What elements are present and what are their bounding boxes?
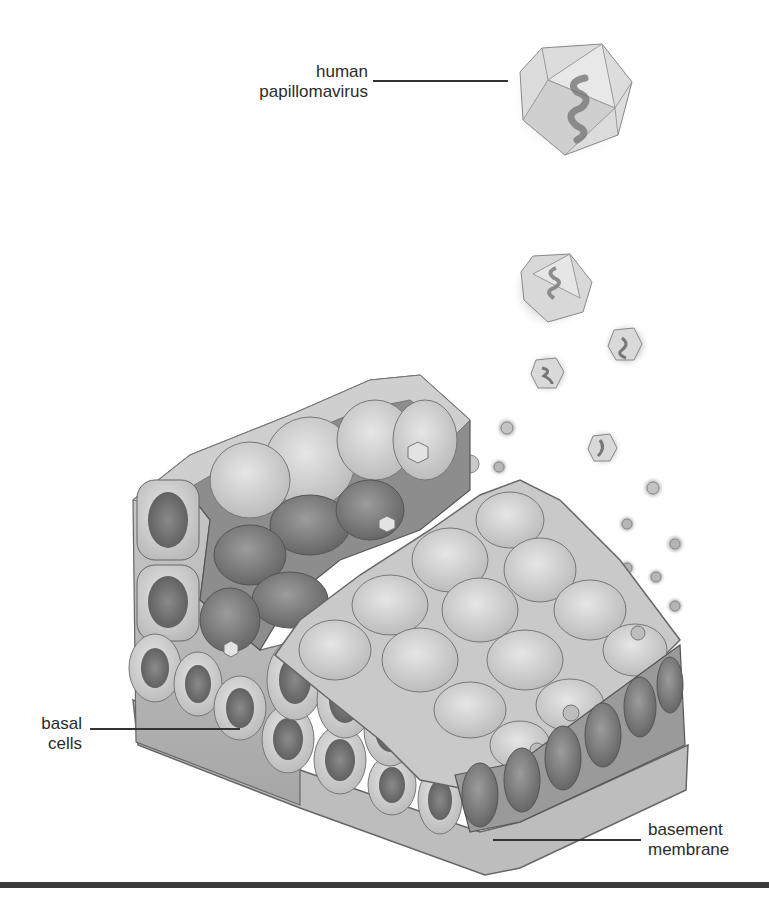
virus-particle-icon [489,457,509,477]
label-line: basal [20,714,82,734]
bottom-rule [0,882,769,888]
epithelium-illustration [0,0,769,897]
medium-virus-icon [511,250,592,330]
embedded-virus-icon [379,516,395,532]
label-basement-membrane: basement membrane [648,820,729,860]
virus-particle-icon [665,596,685,616]
embedded-virus-icon [224,641,238,657]
embedded-virus-icon [408,442,428,463]
label-human-papillomavirus: human papillomavirus [250,62,368,102]
label-line: papillomavirus [250,82,368,102]
virus-particle-icon [641,476,665,500]
leader-line-virus [373,80,508,82]
label-basal-cells: basal cells [20,714,82,754]
label-line: human [250,62,368,82]
label-line: cells [20,734,82,754]
large-virus-icon [511,35,635,159]
virus-particle-icon [495,416,519,440]
virus-particle-icon [664,533,686,555]
virus-particle-icon [617,514,637,534]
label-line: basement [648,820,729,840]
virus-particle-icon [646,567,666,587]
virus-particle-icon [583,428,623,468]
virus-particle-icon [526,351,570,395]
virus-particle-icon [602,321,650,369]
label-line: membrane [648,840,729,860]
leader-line-membrane [493,839,641,841]
leader-line-basal [90,728,240,730]
